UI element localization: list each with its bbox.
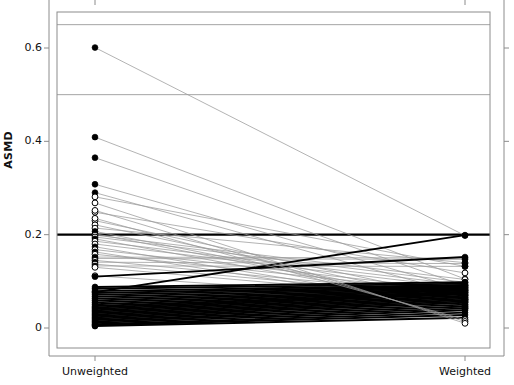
data-point-marker — [92, 323, 98, 329]
y-tick-label-0point4: 0.4 — [8, 134, 42, 147]
y-tick-label-0point6: 0.6 — [8, 41, 42, 54]
y-axis-label: ASMD — [2, 110, 15, 190]
data-point-marker — [92, 194, 98, 200]
reference-lines-group — [57, 25, 490, 235]
data-point-marker — [462, 270, 468, 276]
data-point-marker — [92, 134, 98, 140]
x-tick-label-unweighted: Unweighted — [35, 365, 155, 378]
data-point-marker — [92, 208, 98, 214]
data-point-marker — [92, 45, 98, 51]
data-point-marker — [92, 200, 98, 206]
data-point-marker — [92, 181, 98, 187]
y-tick-label-0point2: 0.2 — [8, 228, 42, 241]
data-point-marker — [92, 264, 98, 270]
data-point-marker — [462, 264, 468, 270]
slope-chart-figure: ASMD 0 0.2 0.4 0.6 Unweighted Weighted — [0, 0, 514, 385]
data-point-marker — [462, 232, 468, 238]
y-tick-label-0: 0 — [8, 321, 42, 334]
data-point-marker — [92, 155, 98, 161]
data-point-marker — [462, 320, 468, 326]
data-point-marker — [92, 289, 98, 295]
x-tick-label-weighted: Weighted — [405, 365, 514, 378]
plot-canvas — [0, 0, 514, 385]
series-lines-group — [95, 48, 465, 327]
data-point-marker — [92, 215, 98, 221]
data-point-marker — [462, 254, 468, 260]
data-point-marker — [92, 274, 98, 280]
